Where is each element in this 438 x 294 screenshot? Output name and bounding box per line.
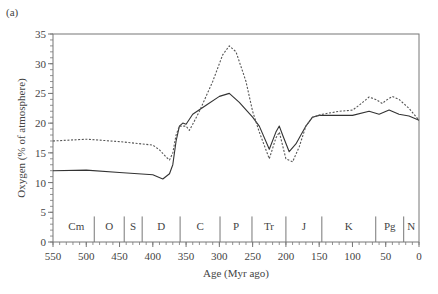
period-label-tr: Tr	[264, 220, 274, 232]
x-tick-label: 150	[311, 250, 328, 262]
y-tick-label: 0	[41, 236, 47, 248]
x-axis-label: Age (Myr ago)	[203, 267, 269, 280]
period-label-cm: Cm	[68, 220, 84, 232]
x-tick-label: 500	[78, 250, 95, 262]
period-label-c: C	[196, 220, 203, 232]
y-tick-label: 35	[35, 28, 47, 40]
plot-frame	[53, 34, 419, 242]
y-tick-label: 5	[41, 206, 47, 218]
x-tick-label: 350	[178, 250, 195, 262]
x-tick-label: 200	[278, 250, 295, 262]
data-series	[53, 46, 419, 179]
series-dashed	[53, 46, 419, 162]
y-tick-label: 10	[35, 177, 47, 189]
x-tick-label: 400	[145, 250, 162, 262]
axis-ticks: 5505004504003503002502001501005000510152…	[35, 28, 422, 262]
period-label-pg: Pg	[384, 220, 396, 232]
y-tick-label: 30	[35, 58, 47, 70]
y-axis-label: Oxygen (% of atmosphere)	[15, 78, 28, 198]
x-tick-label: 550	[45, 250, 62, 262]
x-tick-label: 250	[244, 250, 261, 262]
period-label-d: D	[157, 220, 165, 232]
x-tick-label: 450	[111, 250, 128, 262]
period-label-n: N	[407, 220, 415, 232]
y-tick-label: 15	[35, 147, 47, 159]
geologic-periods: CmOSDCPTrJKPgN	[68, 216, 415, 242]
period-label-o: O	[105, 220, 113, 232]
period-label-k: K	[345, 220, 353, 232]
period-label-p: P	[233, 220, 239, 232]
y-tick-label: 25	[35, 87, 47, 99]
x-tick-label: 100	[344, 250, 361, 262]
oxygen-chart: 5505004504003503002502001501005000510152…	[0, 0, 438, 294]
y-tick-label: 20	[35, 117, 47, 129]
period-label-j: J	[302, 220, 307, 232]
x-tick-label: 300	[211, 250, 228, 262]
series-solid	[53, 93, 419, 179]
period-label-s: S	[130, 220, 136, 232]
x-tick-label: 50	[380, 250, 392, 262]
x-tick-label: 0	[416, 250, 422, 262]
